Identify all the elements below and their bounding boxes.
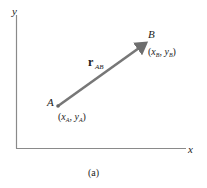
point-a-label: A [46,96,54,108]
figure-caption: (a) [88,167,99,179]
point-a-dot [56,104,60,108]
vector-label: r [88,55,94,69]
x-axis-label: x [187,143,193,155]
vector-r-ab [58,43,146,106]
y-axis-label: y [11,5,17,17]
point-a-coordinates: (xA, yA) [58,111,86,123]
position-vector-diagram: y x r AB A (xA, yA) B (xB, yB) (a) [0,0,207,188]
point-b-label: B [148,28,155,40]
svg-text:(xA, yA): (xA, yA) [58,111,86,123]
vector-label-subscript: AB [94,63,104,71]
point-b-coordinates: (xB, yB) [148,46,176,58]
svg-text:(xB, yB): (xB, yB) [148,46,176,58]
